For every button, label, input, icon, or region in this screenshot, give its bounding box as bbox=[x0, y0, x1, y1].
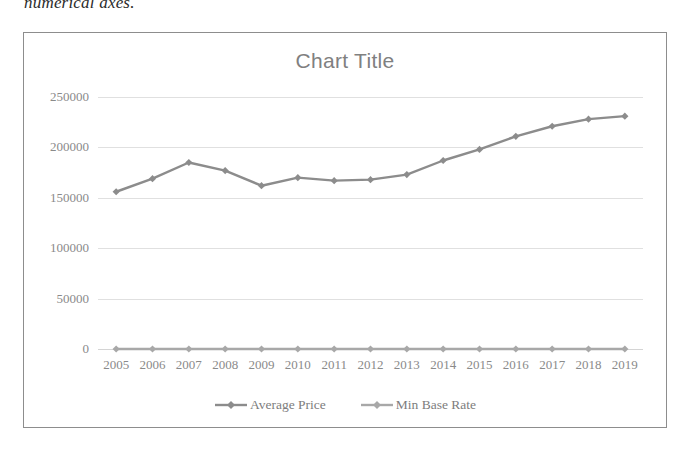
diamond-marker bbox=[367, 176, 374, 183]
series-average-price bbox=[113, 113, 629, 196]
page-caption-text: numerical axes. bbox=[24, 0, 135, 13]
legend-swatch-icon bbox=[214, 399, 248, 411]
y-tick-label: 250000 bbox=[50, 89, 89, 105]
diamond-marker bbox=[621, 113, 628, 120]
diamond-marker bbox=[185, 159, 192, 166]
diamond-marker bbox=[258, 345, 265, 352]
x-tick-label: 2008 bbox=[212, 357, 238, 373]
x-tick-label: 2005 bbox=[103, 357, 129, 373]
diamond-marker bbox=[149, 345, 156, 352]
x-tick-label: 2019 bbox=[612, 357, 638, 373]
diamond-marker bbox=[512, 345, 519, 352]
x-tick-label: 2018 bbox=[576, 357, 602, 373]
legend-label: Min Base Rate bbox=[396, 397, 476, 413]
y-tick-label: 0 bbox=[83, 341, 90, 357]
x-tick-label: 2006 bbox=[140, 357, 166, 373]
plot-area: 050000100000150000200000250000 200520062… bbox=[98, 97, 643, 349]
diamond-marker bbox=[585, 345, 592, 352]
x-tick-label: 2009 bbox=[249, 357, 275, 373]
diamond-marker bbox=[113, 345, 120, 352]
x-tick-label: 2010 bbox=[285, 357, 311, 373]
diamond-marker bbox=[185, 345, 192, 352]
x-tick-label: 2013 bbox=[394, 357, 420, 373]
diamond-marker bbox=[403, 345, 410, 352]
x-tick-label: 2017 bbox=[539, 357, 565, 373]
diamond-marker bbox=[512, 133, 519, 140]
diamond-marker bbox=[222, 345, 229, 352]
y-tick-label: 200000 bbox=[50, 139, 89, 155]
diamond-marker bbox=[585, 116, 592, 123]
chart-container: Chart Title 0500001000001500002000002500… bbox=[23, 32, 667, 428]
diamond-marker bbox=[113, 188, 120, 195]
diamond-marker bbox=[476, 345, 483, 352]
diamond-marker bbox=[331, 177, 338, 184]
y-tick-label: 150000 bbox=[50, 190, 89, 206]
diamond-marker bbox=[149, 175, 156, 182]
diamond-marker bbox=[476, 146, 483, 153]
legend-label: Average Price bbox=[250, 397, 326, 413]
diamond-marker bbox=[403, 171, 410, 178]
diamond-marker bbox=[294, 174, 301, 181]
diamond-marker bbox=[222, 167, 229, 174]
diamond-marker bbox=[294, 345, 301, 352]
chart-legend: Average PriceMin Base Rate bbox=[24, 397, 666, 413]
diamond-marker bbox=[549, 345, 556, 352]
x-tick-label: 2015 bbox=[467, 357, 493, 373]
x-tick-label: 2011 bbox=[321, 357, 347, 373]
x-tick-label: 2012 bbox=[358, 357, 384, 373]
x-tick-label: 2007 bbox=[176, 357, 202, 373]
series-min-base-rate bbox=[113, 345, 629, 352]
legend-swatch-icon bbox=[360, 399, 394, 411]
diamond-marker bbox=[621, 345, 628, 352]
y-tick-label: 50000 bbox=[57, 291, 90, 307]
chart-title: Chart Title bbox=[24, 49, 666, 73]
x-tick-label: 2016 bbox=[503, 357, 529, 373]
diamond-marker bbox=[367, 345, 374, 352]
diamond-marker bbox=[440, 157, 447, 164]
legend-item[interactable]: Min Base Rate bbox=[360, 397, 476, 413]
legend-item[interactable]: Average Price bbox=[214, 397, 326, 413]
series-layer bbox=[98, 97, 643, 349]
diamond-marker bbox=[549, 123, 556, 130]
y-tick-label: 100000 bbox=[50, 240, 89, 256]
diamond-marker bbox=[331, 345, 338, 352]
diamond-marker bbox=[258, 182, 265, 189]
x-tick-label: 2014 bbox=[430, 357, 456, 373]
diamond-marker bbox=[440, 345, 447, 352]
